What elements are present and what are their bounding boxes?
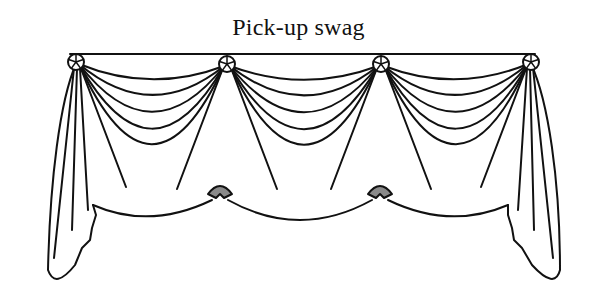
swag-2-fold-4 bbox=[230, 66, 378, 129]
swag-3-fold-5 bbox=[384, 64, 528, 144]
hem-left bbox=[93, 200, 212, 216]
right-jabot-fold-2 bbox=[530, 68, 534, 230]
hem-right bbox=[388, 200, 508, 216]
pick-up-swag-drawing bbox=[0, 0, 597, 293]
swag-1-fold-5 bbox=[79, 64, 224, 144]
swag-2-fold-5 bbox=[230, 66, 378, 145]
right-jabot-fold-3 bbox=[518, 68, 527, 210]
swag-2-fold-1 bbox=[230, 66, 378, 80]
swag-1-left-tail bbox=[80, 66, 126, 187]
hem-center bbox=[228, 200, 372, 220]
left-jabot-fold-3 bbox=[80, 68, 88, 210]
swag-1-fold-1 bbox=[79, 64, 224, 79]
left-jabot-fold-2 bbox=[72, 68, 77, 230]
swag-3-fold-1 bbox=[384, 64, 528, 79]
left-jabot-fold-1 bbox=[54, 68, 74, 258]
pick-up-1 bbox=[208, 186, 232, 198]
pick-up-2 bbox=[368, 186, 392, 198]
